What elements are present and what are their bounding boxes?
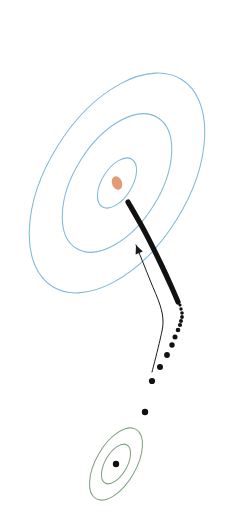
secondary-mean-marker — [113, 461, 119, 467]
trajectory-dot — [157, 364, 163, 370]
trajectory-dot — [173, 335, 178, 340]
trajectory-dot — [169, 342, 174, 347]
trajectory-dot — [178, 323, 182, 327]
plot-canvas — [0, 0, 225, 532]
figure-container: Gaussian contour optimization trajectory… — [0, 0, 225, 532]
trajectory-dot — [180, 311, 184, 315]
trajectory-dot — [179, 307, 182, 310]
plot-background — [0, 0, 225, 532]
trajectory-dot — [180, 315, 184, 319]
trajectory-dot — [142, 409, 148, 415]
trajectory-dot — [164, 352, 170, 358]
trajectory-dot — [149, 378, 155, 384]
trajectory-dot — [178, 303, 181, 306]
trajectory-dot — [179, 319, 183, 323]
trajectory-dot — [176, 328, 181, 333]
